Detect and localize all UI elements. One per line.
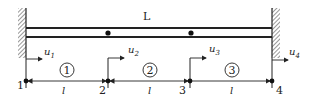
node-number: 1 [17, 79, 24, 92]
svg-text:1: 1 [64, 64, 71, 77]
beam [26, 28, 272, 37]
element-length-label: l [148, 85, 151, 96]
element-length-label: l [230, 85, 233, 96]
displacement-label: u3 [209, 43, 220, 57]
node-number: 3 [179, 84, 186, 97]
displacement-label: u4 [289, 46, 300, 60]
svg-text:3: 3 [229, 64, 236, 77]
node-2: u2 2 [99, 44, 139, 97]
beam-length-label: L [143, 10, 151, 23]
beam-point-marker [105, 30, 110, 35]
element-2-label: 2 [143, 63, 157, 77]
beam-point-marker [188, 30, 193, 35]
svg-text:2: 2 [147, 64, 154, 77]
right-fixed-support [272, 8, 280, 58]
element-3-label: 3 [225, 63, 239, 77]
left-fixed-support [18, 8, 26, 58]
node-number: 4 [276, 84, 283, 97]
displacement-label: u2 [128, 44, 139, 58]
element-length-label: l [62, 85, 65, 96]
element-1-label: 1 [60, 63, 74, 77]
node-3: u3 3 [179, 43, 220, 97]
node-number: 2 [99, 84, 106, 97]
displacement-label: u1 [44, 46, 55, 60]
beam-diagram: L u1 1 u2 2 u3 3 u4 4 1 [0, 0, 316, 98]
